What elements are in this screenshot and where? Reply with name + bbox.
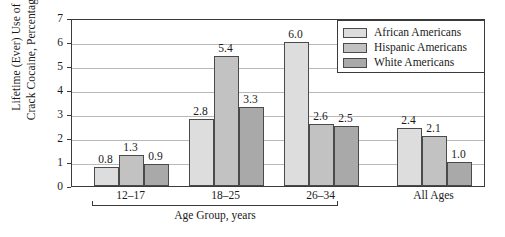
bar	[214, 56, 239, 186]
y-axis-tick-mark	[67, 187, 71, 188]
y-axis-tick-label: 4	[41, 85, 63, 97]
bar	[397, 128, 422, 186]
bar	[334, 126, 359, 186]
bar	[189, 119, 214, 186]
bar	[422, 136, 447, 186]
legend-label-african-americans: African Americans	[374, 27, 461, 39]
bar	[94, 167, 119, 186]
bar	[309, 124, 334, 186]
legend-item: Hispanic Americans	[343, 40, 484, 55]
x-axis-category-label: 26–34	[281, 190, 361, 202]
bar-value-label: 2.1	[417, 123, 450, 135]
y-axis-tick-label: 2	[41, 133, 63, 145]
age-group-bracket	[92, 201, 338, 206]
legend: African Americans Hispanic Americans Whi…	[337, 20, 485, 73]
legend-label-white-americans: White Americans	[374, 57, 454, 69]
y-axis-tick-label: 6	[41, 37, 63, 49]
bar-value-label: 5.4	[209, 43, 242, 55]
y-axis-tick-label: 7	[41, 13, 63, 25]
x-axis-category-label: 12–17	[91, 190, 171, 202]
y-axis-title-line-1: Lifetime (Ever) Use of	[9, 0, 24, 142]
x-axis-category-label: All Ages	[394, 190, 474, 202]
bar-value-label: 3.3	[234, 94, 267, 106]
bar-value-label: 0.8	[89, 154, 122, 166]
bar-value-label: 2.8	[184, 106, 217, 118]
legend-label-hispanic-americans: Hispanic Americans	[374, 42, 467, 54]
y-axis-tick-label: 0	[41, 181, 63, 193]
bar-value-label: 1.0	[442, 149, 475, 161]
x-axis-title: Age Group, years	[95, 209, 335, 221]
bar-value-label: 2.5	[329, 113, 362, 125]
bar	[144, 164, 169, 186]
legend-item: White Americans	[343, 55, 484, 70]
y-axis-title-line-2: Crack Cocaine, Percentage	[24, 0, 39, 142]
y-axis-tick-label: 1	[41, 157, 63, 169]
bar	[239, 107, 264, 186]
legend-swatch-hispanic-americans	[343, 43, 367, 53]
bar-value-label: 6.0	[279, 29, 312, 41]
bar	[447, 162, 472, 186]
y-axis-tick-label: 5	[41, 61, 63, 73]
legend-swatch-white-americans	[343, 58, 367, 68]
y-axis-tick-label: 3	[41, 109, 63, 121]
gridline	[72, 92, 484, 93]
legend-item: African Americans	[343, 25, 484, 40]
legend-swatch-african-americans	[343, 28, 367, 38]
crack-cocaine-bar-chart: Lifetime (Ever) Use of Crack Cocaine, Pe…	[0, 0, 505, 237]
y-axis-title: Lifetime (Ever) Use of Crack Cocaine, Pe…	[9, 0, 43, 142]
x-axis-category-label: 18–25	[186, 190, 266, 202]
bar-value-label: 0.9	[139, 151, 172, 163]
